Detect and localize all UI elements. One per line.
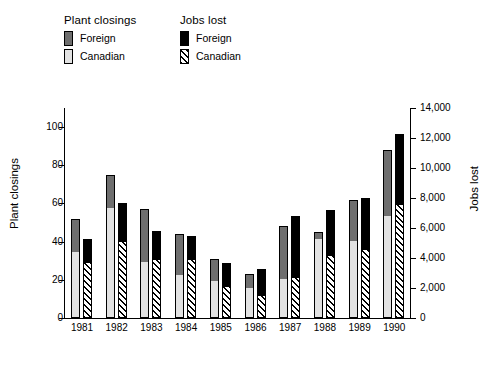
y-tick-right bbox=[411, 138, 416, 139]
bar-plant-closings-1988 bbox=[314, 232, 323, 318]
segment-plant-foreign bbox=[280, 227, 287, 280]
bar-plant-closings-1986 bbox=[245, 274, 254, 318]
y-axis-left bbox=[64, 108, 65, 319]
legend-plant-title: Plant closings bbox=[64, 14, 136, 26]
bar-plant-closings-1983 bbox=[140, 209, 149, 318]
segment-plant-canadian bbox=[141, 262, 148, 317]
legend-item-plant-foreign: Foreign bbox=[64, 30, 136, 46]
x-label-1990: 1990 bbox=[371, 322, 417, 333]
segment-jobs-canadian bbox=[327, 256, 334, 318]
legend-label-jobs-canadian: Canadian bbox=[196, 50, 241, 62]
y-tick-label-left: 80 bbox=[23, 160, 63, 170]
y-tick-label-right: 12,000 bbox=[420, 133, 451, 143]
y-tick-label-right: 2,000 bbox=[420, 283, 445, 293]
segment-plant-canadian bbox=[107, 208, 114, 317]
legend-item-jobs-canadian: Canadian bbox=[180, 48, 241, 64]
segment-jobs-canadian bbox=[188, 260, 195, 317]
segment-plant-foreign bbox=[384, 151, 391, 218]
swatch-jobs-foreign-icon bbox=[180, 31, 189, 46]
swatch-plant-canadian-icon bbox=[64, 49, 73, 64]
y-tick-label-left: 60 bbox=[23, 198, 63, 208]
y-tick-label-right: 6,000 bbox=[420, 223, 445, 233]
segment-jobs-foreign bbox=[119, 204, 126, 245]
segment-plant-foreign bbox=[176, 235, 183, 277]
y-tick-label-left: 20 bbox=[23, 275, 63, 285]
segment-jobs-canadian bbox=[258, 296, 265, 317]
y-tick-right bbox=[411, 108, 416, 109]
segment-plant-foreign bbox=[72, 220, 79, 254]
legend-label-plant-foreign: Foreign bbox=[80, 32, 116, 44]
segment-jobs-foreign bbox=[258, 270, 265, 299]
segment-plant-canadian bbox=[350, 241, 357, 317]
segment-jobs-canadian bbox=[84, 263, 91, 317]
bar-plant-closings-1987 bbox=[279, 226, 288, 318]
segment-plant-foreign bbox=[211, 260, 218, 283]
swatch-jobs-canadian-icon bbox=[180, 49, 189, 64]
segment-jobs-foreign bbox=[188, 237, 195, 263]
y-tick-right bbox=[411, 318, 416, 319]
segment-plant-canadian bbox=[280, 279, 287, 317]
bar-plant-closings-1981 bbox=[71, 219, 80, 318]
y-tick-right bbox=[411, 288, 416, 289]
bar-jobs-lost-1981 bbox=[83, 239, 92, 319]
segment-jobs-foreign bbox=[396, 135, 403, 207]
y-tick-label-left: 0 bbox=[23, 313, 63, 323]
y-tick-right bbox=[411, 198, 416, 199]
y-tick-label-left: 100 bbox=[23, 122, 63, 132]
bar-jobs-lost-1989 bbox=[361, 198, 370, 318]
segment-jobs-canadian bbox=[119, 242, 126, 317]
legend-item-plant-canadian: Canadian bbox=[64, 48, 136, 64]
segment-jobs-foreign bbox=[84, 240, 91, 266]
x-axis bbox=[64, 318, 411, 319]
segment-plant-canadian bbox=[384, 216, 391, 317]
y-tick-label-left: 40 bbox=[23, 237, 63, 247]
y-axis-left-title: Plant closings bbox=[8, 158, 20, 229]
y-tick-label-right: 8,000 bbox=[420, 193, 445, 203]
y-tick-right bbox=[411, 258, 416, 259]
segment-plant-canadian bbox=[72, 252, 79, 317]
segment-jobs-foreign bbox=[153, 232, 160, 262]
legend-jobs-title: Jobs lost bbox=[180, 14, 241, 26]
segment-jobs-canadian bbox=[223, 287, 230, 317]
segment-jobs-canadian bbox=[396, 205, 403, 318]
bar-jobs-lost-1990 bbox=[395, 134, 404, 319]
plot-area: 020406080100 02,0004,0006,0008,00010,000… bbox=[64, 108, 411, 318]
y-tick-right bbox=[411, 228, 416, 229]
legend-label-jobs-foreign: Foreign bbox=[196, 32, 232, 44]
bar-plant-closings-1984 bbox=[175, 234, 184, 318]
y-tick-label-right: 14,000 bbox=[420, 103, 451, 113]
legend-plant-closings: Plant closings Foreign Canadian bbox=[64, 14, 136, 66]
bar-jobs-lost-1986 bbox=[257, 269, 266, 319]
segment-plant-foreign bbox=[141, 210, 148, 263]
legend-item-jobs-foreign: Foreign bbox=[180, 30, 241, 46]
segment-plant-canadian bbox=[246, 288, 253, 317]
segment-jobs-canadian bbox=[292, 278, 299, 317]
segment-jobs-foreign bbox=[327, 211, 334, 258]
bar-jobs-lost-1983 bbox=[152, 231, 161, 318]
bar-plant-closings-1982 bbox=[106, 175, 115, 318]
segment-plant-canadian bbox=[211, 281, 218, 317]
bar-jobs-lost-1985 bbox=[222, 263, 231, 319]
segment-jobs-foreign bbox=[362, 199, 369, 252]
segment-jobs-foreign bbox=[292, 217, 299, 280]
bar-jobs-lost-1984 bbox=[187, 236, 196, 319]
bar-plant-closings-1990 bbox=[383, 150, 392, 318]
y-axis-right-title: Jobs lost bbox=[468, 166, 480, 211]
segment-jobs-canadian bbox=[153, 260, 160, 317]
y-tick-right bbox=[411, 168, 416, 169]
segment-plant-canadian bbox=[315, 239, 322, 317]
stacked-bar-chart: Plant closings Foreign Canadian Jobs los… bbox=[0, 0, 486, 369]
legend-label-plant-canadian: Canadian bbox=[80, 50, 125, 62]
bar-jobs-lost-1988 bbox=[326, 210, 335, 318]
y-tick-label-right: 10,000 bbox=[420, 163, 451, 173]
bar-plant-closings-1989 bbox=[349, 200, 358, 318]
legend-jobs-lost: Jobs lost Foreign Canadian bbox=[180, 14, 241, 66]
segment-plant-canadian bbox=[176, 275, 183, 317]
y-tick-label-right: 0 bbox=[420, 313, 426, 323]
segment-jobs-foreign bbox=[223, 264, 230, 290]
segment-plant-foreign bbox=[107, 176, 114, 210]
segment-plant-foreign bbox=[350, 201, 357, 243]
segment-jobs-canadian bbox=[362, 250, 369, 318]
bar-jobs-lost-1987 bbox=[291, 216, 300, 318]
y-tick-label-right: 4,000 bbox=[420, 253, 445, 263]
